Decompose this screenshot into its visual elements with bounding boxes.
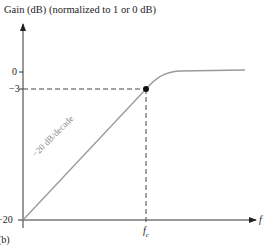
y-axis-title: Gain (dB) (normalized to 1 or 0 dB) <box>4 5 156 16</box>
fc-sub: c <box>146 231 149 239</box>
y-tick-label-minus20: −20 <box>0 215 13 225</box>
y-tick-label-minus3: −3 <box>9 84 20 94</box>
fc-label: fc <box>143 226 149 239</box>
x-axis-label: f <box>259 215 262 225</box>
panel-label: (b) <box>0 235 10 245</box>
corner-point <box>143 86 149 92</box>
gain-curve <box>146 70 245 89</box>
y-tick-label-0: 0 <box>12 67 17 77</box>
